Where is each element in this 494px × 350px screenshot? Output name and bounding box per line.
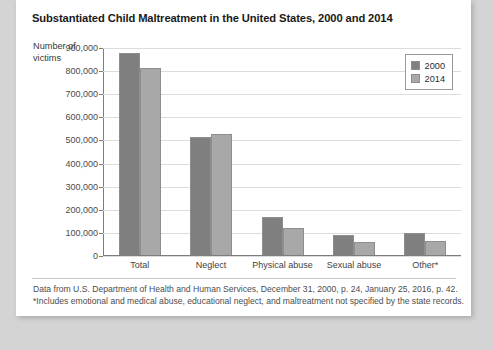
bar-2014 (354, 242, 375, 255)
bar-group: Total (104, 48, 175, 255)
y-axis-tick-mark (99, 94, 103, 95)
bar-2000 (262, 217, 283, 255)
y-axis-tick-mark (99, 140, 103, 141)
y-axis-tick-label: 300,000 (65, 182, 98, 192)
y-axis-tick-mark (99, 233, 103, 234)
bar-2000 (333, 235, 354, 255)
bar-2014 (425, 241, 446, 255)
bar-2000 (404, 233, 425, 255)
y-axis-tick-label: 500,000 (65, 135, 98, 145)
x-axis-tick-label: Neglect (196, 260, 227, 270)
page-title: Substantiated Child Maltreatment in the … (32, 12, 393, 24)
legend-item-2000: 2000 (411, 59, 445, 72)
y-axis-tick-label: 400,000 (65, 159, 98, 169)
chart-legend: 2000 2014 (405, 54, 453, 90)
bar-2014 (140, 68, 161, 255)
bar-group: Physical abuse (247, 48, 318, 255)
y-axis-tick-label: 100,000 (65, 228, 98, 238)
legend-label-2000: 2000 (425, 61, 445, 71)
bar-2014 (283, 228, 304, 255)
legend-swatch-icon-2000 (411, 61, 420, 70)
bar-group: Neglect (175, 48, 246, 255)
plot-area: 900,000800,000700,000600,000500,000400,0… (103, 48, 461, 256)
y-axis-tick-label: 200,000 (65, 205, 98, 215)
x-axis-tick-label: Sexual abuse (327, 260, 382, 270)
legend-swatch-icon-2014 (411, 74, 420, 83)
source-note: Data from U.S. Department of Health and … (33, 284, 465, 296)
y-axis-tick-mark (99, 71, 103, 72)
y-axis-tick-mark (99, 187, 103, 188)
bar-2000 (190, 137, 211, 255)
y-axis-tick-label: 800,000 (65, 66, 98, 76)
legend-item-2014: 2014 (411, 72, 445, 85)
bar-2014 (211, 134, 232, 255)
chart-card: Substantiated Child Maltreatment in the … (16, 0, 471, 316)
screenshot-root: Substantiated Child Maltreatment in the … (0, 0, 494, 350)
y-axis-tick-label: 700,000 (65, 89, 98, 99)
y-axis-tick-mark (99, 117, 103, 118)
y-axis-tick-mark (99, 210, 103, 211)
x-axis-tick-label: Total (130, 260, 149, 270)
x-axis-tick-label: Other* (412, 260, 438, 270)
gridline: 0 (103, 256, 461, 257)
y-axis-tick-label: 600,000 (65, 112, 98, 122)
other-definition-note: *Includes emotional and medical abuse, e… (33, 296, 465, 308)
y-axis-tick-label: 900,000 (65, 43, 98, 53)
bar-2000 (119, 53, 140, 255)
bar-group: Sexual abuse (318, 48, 389, 255)
x-axis-tick-label: Physical abuse (252, 260, 313, 270)
y-axis-tick-mark (99, 164, 103, 165)
footnote-divider (32, 278, 456, 279)
y-axis-tick-mark (99, 256, 103, 257)
y-axis-tick-mark (99, 48, 103, 49)
y-axis-tick-label: 0 (93, 251, 98, 261)
footnotes: Data from U.S. Department of Health and … (33, 284, 465, 307)
legend-label-2014: 2014 (425, 74, 445, 84)
